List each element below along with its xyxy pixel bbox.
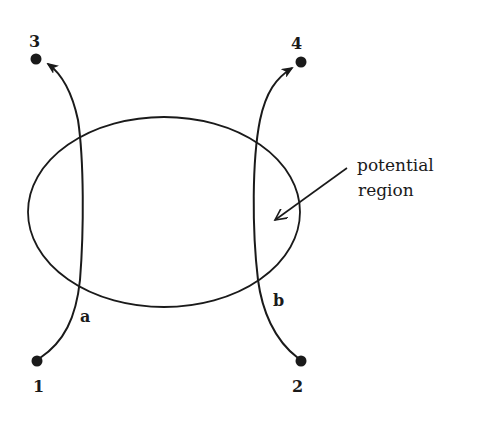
point-1-dot: [32, 356, 43, 367]
region-pointer-arrow: [275, 168, 347, 220]
potential-region-ellipse: [28, 117, 300, 307]
path-a-curve: [40, 64, 83, 358]
point-3-dot: [31, 54, 42, 65]
point-1-label: 1: [33, 377, 44, 396]
path-b-label: b: [273, 291, 284, 310]
path-b-curve: [254, 68, 298, 358]
point-3-label: 3: [29, 32, 40, 51]
diagram-canvas: 3 4 1 2 a b potential region: [0, 0, 486, 428]
point-2-label: 2: [292, 377, 303, 396]
region-label-line1: potential: [357, 155, 434, 175]
point-4-label: 4: [291, 34, 302, 53]
point-2-dot: [296, 356, 307, 367]
point-4-dot: [296, 57, 307, 68]
path-a-label: a: [80, 307, 90, 326]
region-label-line2: region: [358, 180, 414, 200]
